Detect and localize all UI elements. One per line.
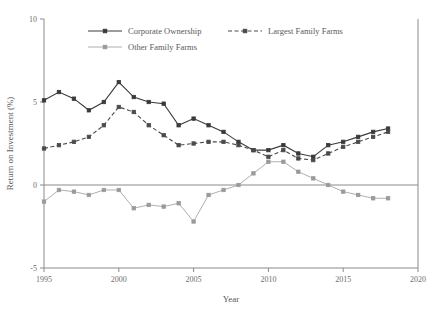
data-point-marker — [162, 205, 165, 208]
data-point-marker — [371, 197, 374, 200]
series-line — [44, 162, 388, 222]
data-point-marker — [327, 183, 330, 186]
data-point-marker — [177, 202, 180, 205]
legend-item-1[interactable]: Largest Family Farms — [228, 26, 343, 36]
chart-legend: Corporate OwnershipLargest Family FarmsO… — [88, 26, 343, 52]
series-1 — [42, 105, 389, 162]
series-line — [44, 107, 388, 160]
legend-item-2[interactable]: Other Family Farms — [88, 42, 197, 52]
data-point-marker — [87, 193, 90, 196]
data-point-marker — [72, 140, 75, 143]
data-point-marker — [356, 135, 359, 138]
series-0 — [42, 80, 389, 158]
x-tick-label: 2000 — [111, 275, 127, 284]
data-series-group — [42, 80, 389, 223]
data-point-marker — [102, 100, 105, 103]
data-point-marker — [72, 190, 75, 193]
data-point-marker — [42, 147, 45, 150]
data-point-marker — [237, 140, 240, 143]
y-axis-ticks: 1050-5 — [29, 15, 44, 273]
data-point-marker — [386, 127, 389, 130]
data-point-marker — [267, 155, 270, 158]
x-axis-title: Year — [223, 294, 240, 304]
data-point-marker — [327, 152, 330, 155]
data-point-marker — [117, 105, 120, 108]
x-tick-label: 2005 — [186, 275, 202, 284]
data-point-marker — [87, 109, 90, 112]
data-point-marker — [282, 160, 285, 163]
x-tick-label: 2015 — [335, 275, 351, 284]
data-point-marker — [57, 90, 60, 93]
legend-marker — [103, 45, 106, 48]
x-tick-label: 2010 — [260, 275, 276, 284]
data-point-marker — [177, 124, 180, 127]
data-point-marker — [371, 135, 374, 138]
data-point-marker — [57, 143, 60, 146]
data-point-marker — [342, 145, 345, 148]
series-line — [44, 82, 388, 157]
data-point-marker — [87, 135, 90, 138]
data-point-marker — [207, 124, 210, 127]
data-point-marker — [192, 220, 195, 223]
data-point-marker — [371, 130, 374, 133]
legend-item-0[interactable]: Corporate Ownership — [88, 26, 201, 36]
data-point-marker — [252, 172, 255, 175]
data-point-marker — [267, 148, 270, 151]
x-axis-ticks: 199520002005201020152020 — [36, 268, 426, 284]
data-point-marker — [252, 148, 255, 151]
x-tick-label: 2020 — [410, 275, 426, 284]
data-point-marker — [342, 140, 345, 143]
data-point-marker — [162, 134, 165, 137]
data-point-marker — [117, 80, 120, 83]
series-2 — [42, 160, 389, 223]
data-point-marker — [207, 193, 210, 196]
legend-marker — [243, 29, 246, 32]
legend-label: Other Family Farms — [128, 42, 197, 52]
y-axis-title: Return on Investment (%) — [5, 97, 15, 191]
legend-label: Corporate Ownership — [128, 26, 201, 36]
data-point-marker — [237, 143, 240, 146]
data-point-marker — [222, 140, 225, 143]
data-point-marker — [147, 203, 150, 206]
data-point-marker — [386, 197, 389, 200]
data-point-marker — [192, 142, 195, 145]
data-point-marker — [297, 157, 300, 160]
y-tick-label: 10 — [29, 15, 37, 24]
data-point-marker — [117, 188, 120, 191]
data-point-marker — [222, 188, 225, 191]
data-point-marker — [102, 124, 105, 127]
data-point-marker — [297, 152, 300, 155]
plot-border — [44, 19, 418, 268]
y-tick-label: 0 — [33, 181, 37, 190]
data-point-marker — [237, 183, 240, 186]
y-tick-label: 5 — [33, 98, 37, 107]
data-point-marker — [207, 140, 210, 143]
data-point-marker — [177, 143, 180, 146]
chart-container: 1050-5 199520002005201020152020 Corporat… — [0, 0, 442, 313]
data-point-marker — [72, 97, 75, 100]
data-point-marker — [57, 188, 60, 191]
data-point-marker — [102, 188, 105, 191]
data-point-marker — [267, 160, 270, 163]
data-point-marker — [386, 130, 389, 133]
y-tick-label: -5 — [30, 264, 37, 273]
legend-label: Largest Family Farms — [268, 26, 343, 36]
data-point-marker — [147, 124, 150, 127]
data-point-marker — [147, 100, 150, 103]
data-point-marker — [356, 193, 359, 196]
roi-line-chart: 1050-5 199520002005201020152020 Corporat… — [0, 0, 442, 313]
data-point-marker — [132, 207, 135, 210]
data-point-marker — [42, 200, 45, 203]
data-point-marker — [282, 148, 285, 151]
data-point-marker — [132, 95, 135, 98]
data-point-marker — [312, 158, 315, 161]
data-point-marker — [282, 143, 285, 146]
plot-frame — [44, 19, 418, 268]
data-point-marker — [297, 170, 300, 173]
data-point-marker — [312, 177, 315, 180]
data-point-marker — [356, 140, 359, 143]
legend-marker — [103, 29, 106, 32]
data-point-marker — [192, 117, 195, 120]
data-point-marker — [222, 130, 225, 133]
data-point-marker — [327, 143, 330, 146]
